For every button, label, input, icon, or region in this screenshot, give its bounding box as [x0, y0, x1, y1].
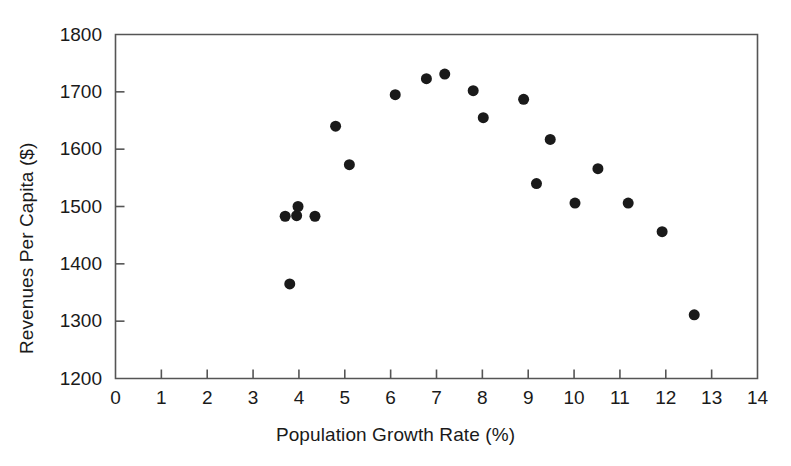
data-point — [478, 112, 489, 123]
data-point — [330, 121, 341, 132]
data-point — [531, 178, 542, 189]
data-point — [569, 198, 580, 209]
x-tick-label: 8 — [477, 387, 488, 409]
data-point — [344, 159, 355, 170]
data-point — [421, 73, 432, 84]
x-tick-label: 6 — [385, 387, 396, 409]
x-tick-label: 13 — [701, 387, 722, 409]
x-axis-label: Population Growth Rate (%) — [0, 424, 791, 446]
y-tick-label: 1500 — [30, 196, 102, 218]
data-point — [592, 163, 603, 174]
data-point — [280, 211, 291, 222]
x-tick-label: 9 — [523, 387, 534, 409]
data-point — [293, 201, 304, 212]
x-tick-label: 3 — [248, 387, 259, 409]
data-point — [309, 211, 320, 222]
x-tick-label: 10 — [563, 387, 584, 409]
x-tick-label: 2 — [202, 387, 213, 409]
data-point — [284, 278, 295, 289]
x-axis-ticks — [161, 370, 711, 379]
y-axis-ticks — [116, 92, 125, 321]
y-tick-label: 1400 — [30, 253, 102, 275]
x-tick-label: 7 — [431, 387, 442, 409]
x-tick-label: 0 — [110, 387, 121, 409]
y-tick-label: 1600 — [30, 138, 102, 160]
data-point-group — [280, 69, 700, 321]
x-tick-label: 11 — [610, 387, 630, 409]
x-tick-label: 14 — [747, 387, 768, 409]
data-point — [657, 226, 668, 237]
x-tick-label: 4 — [294, 387, 305, 409]
x-tick-label: 12 — [655, 387, 676, 409]
data-point — [545, 134, 556, 145]
data-point — [518, 94, 529, 105]
y-tick-label: 1300 — [30, 310, 102, 332]
plot-frame — [116, 35, 758, 379]
y-tick-label: 1700 — [30, 81, 102, 103]
x-tick-label: 5 — [339, 387, 350, 409]
data-point — [390, 89, 401, 100]
y-tick-label: 1800 — [30, 24, 102, 46]
y-tick-label: 1200 — [30, 368, 102, 390]
data-point — [623, 198, 634, 209]
scatter-chart-figure: Revenues Per Capita ($) Population Growt… — [0, 0, 791, 466]
data-point — [439, 69, 450, 80]
data-point — [468, 85, 479, 96]
x-tick-label: 1 — [156, 387, 167, 409]
data-point — [689, 309, 700, 320]
